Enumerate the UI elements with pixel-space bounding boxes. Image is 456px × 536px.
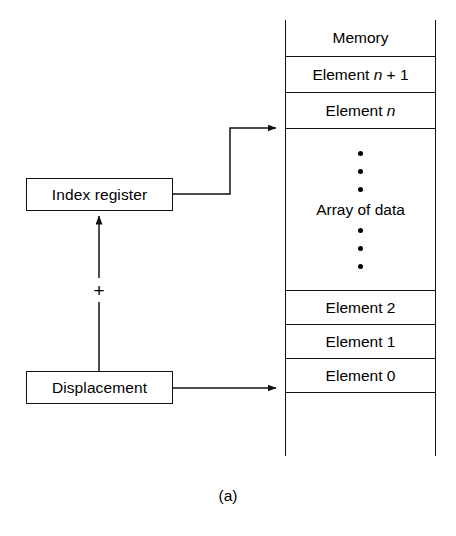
vertical-dots-above-icon bbox=[358, 145, 363, 198]
element-n-plus-1-suffix: + 1 bbox=[382, 66, 408, 83]
plus-operator-symbol: + bbox=[84, 278, 114, 302]
memory-row-element-n-plus-1: Element n + 1 bbox=[286, 56, 435, 92]
memory-row-element-0: Element 0 bbox=[286, 358, 435, 392]
memory-header-row: Memory bbox=[286, 20, 435, 56]
memory-row-blank bbox=[286, 392, 435, 444]
memory-row-array-of-data: Array of data bbox=[286, 128, 435, 290]
element-n-plus-1-label: Element n + 1 bbox=[312, 66, 408, 84]
element-n-prefix: Element bbox=[326, 102, 387, 119]
element-n-plus-1-prefix: Element bbox=[312, 66, 373, 83]
dot-icon bbox=[358, 228, 363, 233]
dot-icon bbox=[358, 264, 363, 269]
dot-icon bbox=[358, 187, 363, 192]
array-of-data-label: Array of data bbox=[316, 198, 405, 222]
element-n-label: Element n bbox=[326, 102, 396, 120]
vertical-dots-below-icon bbox=[358, 222, 363, 275]
memory-row-element-n: Element n bbox=[286, 92, 435, 128]
element-n-plus-1-var: n bbox=[374, 66, 383, 83]
displacement-box: Displacement bbox=[26, 371, 173, 404]
element-2-label: Element 2 bbox=[326, 299, 396, 317]
memory-header-label: Memory bbox=[333, 29, 389, 47]
dot-icon bbox=[358, 151, 363, 156]
memory-column: Memory Element n + 1 Element n Array of … bbox=[285, 20, 436, 456]
element-n-var: n bbox=[387, 102, 396, 119]
index-register-label: Index register bbox=[52, 186, 147, 204]
figure-indexed-addressing: Index register + Displacement Memory Ele… bbox=[0, 0, 456, 536]
memory-row-element-1: Element 1 bbox=[286, 324, 435, 358]
element-1-label: Element 1 bbox=[326, 333, 396, 351]
arrow-index-register-to-element-n bbox=[173, 128, 276, 194]
displacement-label: Displacement bbox=[52, 379, 147, 397]
dot-icon bbox=[358, 246, 363, 251]
dot-icon bbox=[358, 169, 363, 174]
figure-caption: (a) bbox=[0, 487, 456, 505]
plus-operator-label: + bbox=[93, 281, 104, 300]
index-register-box: Index register bbox=[26, 178, 173, 211]
element-0-label: Element 0 bbox=[326, 367, 396, 385]
memory-row-element-2: Element 2 bbox=[286, 290, 435, 324]
